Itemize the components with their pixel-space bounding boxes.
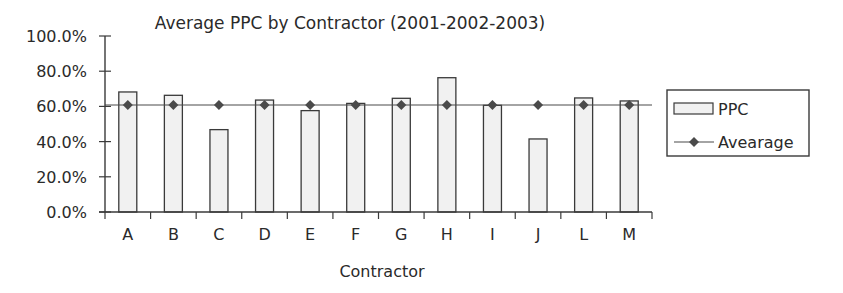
diamond-marker-icon: [305, 100, 315, 110]
x-category-label: C: [213, 225, 224, 244]
bar-H: [438, 78, 456, 212]
x-category-label: I: [490, 225, 495, 244]
bar-B: [164, 95, 182, 212]
bar-I: [483, 105, 501, 212]
y-tick-label: 80.0%: [36, 62, 87, 81]
diamond-marker-icon: [533, 100, 543, 110]
x-category-label: E: [305, 225, 315, 244]
x-category-label: M: [622, 225, 636, 244]
chart: Average PPC by Contractor (2001-2002-200…: [0, 0, 843, 293]
bar-D: [256, 100, 274, 212]
y-tick-label: 0.0%: [46, 203, 87, 222]
y-axis-ticks: 0.0%20.0%40.0%60.0%80.0%100.0%: [26, 27, 111, 222]
x-category-label: B: [168, 225, 179, 244]
x-axis: ABCDEFGHIJLM: [99, 212, 652, 244]
x-category-label: J: [535, 225, 541, 244]
bar-F: [347, 103, 365, 212]
legend-bar-swatch: [674, 103, 713, 114]
y-tick-label: 40.0%: [36, 133, 87, 152]
bar-L: [575, 98, 593, 212]
bar-M: [620, 101, 638, 212]
legend-label-ppc: PPC: [718, 100, 748, 119]
legend: PPC Avearage: [667, 90, 809, 156]
legend-label-average: Avearage: [718, 133, 794, 152]
x-category-label: A: [122, 225, 133, 244]
y-tick-label: 60.0%: [36, 97, 87, 116]
x-axis-title: Contractor: [339, 262, 425, 281]
bar-J: [529, 139, 547, 212]
average-line: [105, 100, 652, 110]
bar-E: [301, 111, 319, 212]
x-category-label: G: [395, 225, 407, 244]
x-category-label: H: [441, 225, 453, 244]
x-category-label: F: [351, 225, 360, 244]
y-tick-label: 100.0%: [26, 27, 87, 46]
chart-title: Average PPC by Contractor (2001-2002-200…: [155, 13, 546, 33]
ppc-bars: [119, 78, 638, 212]
x-category-label: D: [258, 225, 270, 244]
y-tick-label: 20.0%: [36, 168, 87, 187]
bar-C: [210, 130, 228, 212]
bar-G: [392, 98, 410, 212]
x-category-label: L: [579, 225, 588, 244]
diamond-marker-icon: [214, 100, 224, 110]
